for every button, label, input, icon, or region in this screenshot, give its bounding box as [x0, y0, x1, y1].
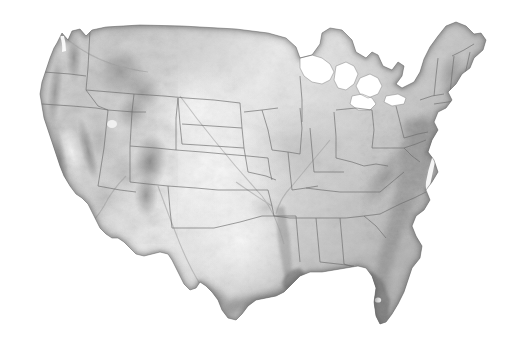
relief-map-figure: Contiguous United States	[0, 0, 513, 346]
great-salt-lake	[107, 120, 117, 128]
us-shaded-relief-map	[0, 0, 513, 346]
